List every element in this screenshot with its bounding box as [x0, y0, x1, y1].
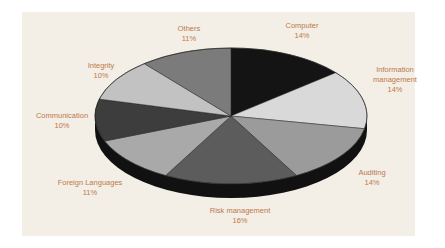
slice-name: Foreign Languages — [58, 178, 123, 188]
slice-pct: 14% — [373, 85, 417, 95]
pie-slices — [95, 48, 367, 184]
slice-name: Computer — [286, 21, 319, 31]
slice-name: Risk management — [210, 206, 270, 216]
slice-pct: 11% — [58, 188, 123, 198]
label-foreign-languages: Foreign Languages 11% — [58, 178, 123, 198]
slice-name: Others — [178, 24, 201, 34]
slice-pct: 14% — [286, 31, 319, 41]
label-integrity: Integrity 10% — [88, 61, 115, 81]
label-risk-management: Risk management 16% — [210, 206, 270, 226]
slice-name: Communication — [36, 111, 88, 121]
slice-name-line2: management — [373, 75, 417, 85]
slice-pct: 10% — [36, 121, 88, 131]
slice-pct: 10% — [88, 71, 115, 81]
label-auditing: Auditing 14% — [358, 168, 385, 188]
slice-pct: 16% — [210, 216, 270, 226]
label-information-management: Information management 14% — [373, 65, 417, 95]
label-others: Others 11% — [178, 24, 201, 44]
label-computer: Computer 14% — [286, 21, 319, 41]
slice-name-line1: Information — [373, 65, 417, 75]
slice-pct: 14% — [358, 178, 385, 188]
label-communication: Communication 10% — [36, 111, 88, 131]
slice-name: Integrity — [88, 61, 115, 71]
slice-name: Auditing — [358, 168, 385, 178]
slice-pct: 11% — [178, 34, 201, 44]
